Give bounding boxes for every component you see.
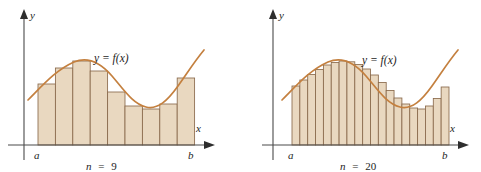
rectangle	[323, 65, 331, 145]
lower-bound-label: a	[288, 149, 294, 161]
x-axis-arrowhead	[458, 141, 469, 149]
rectangle	[402, 104, 410, 145]
rectangle	[410, 108, 418, 145]
rectangle	[142, 109, 159, 145]
rectangles-n20	[292, 61, 449, 145]
rectangle	[433, 99, 441, 146]
caption-equals: =	[98, 160, 104, 172]
rectangle	[441, 87, 449, 145]
rectangle	[347, 62, 355, 145]
y-axis-label: y	[29, 9, 35, 21]
y-axis-arrowhead	[20, 9, 28, 19]
x-axis-label: x	[195, 122, 201, 134]
y-axis-label: y	[278, 9, 284, 21]
function-label: y = f(x)	[93, 52, 129, 65]
rectangle	[308, 75, 316, 146]
rectangle	[418, 109, 426, 145]
panel-n20-plot: y x a b y = f(x) n = 20	[240, 0, 480, 172]
rectangle	[125, 106, 142, 145]
rectangle	[355, 65, 363, 146]
caption-equals: =	[352, 160, 358, 172]
rectangle	[292, 86, 300, 145]
rectangle	[55, 68, 72, 145]
upper-bound-label: b	[188, 149, 194, 161]
caption-n-symbol: n	[340, 160, 346, 172]
rectangle	[425, 106, 433, 145]
rectangle	[316, 70, 324, 146]
function-label: y = f(x)	[361, 54, 397, 67]
rectangle	[38, 84, 55, 145]
lower-bound-label: a	[34, 149, 40, 161]
x-axis-arrowhead	[204, 141, 215, 149]
x-axis-label: x	[449, 122, 455, 134]
caption-value: 9	[111, 160, 117, 172]
rectangle	[108, 92, 125, 145]
panel-n9-plot: y x a b y = f(x) n = 9	[0, 0, 240, 172]
riemann-sum-figure: y x a b y = f(x) n = 9	[0, 0, 481, 172]
caption-value: 20	[365, 160, 377, 172]
rectangle	[300, 80, 308, 145]
upper-bound-label: b	[442, 149, 448, 161]
rectangle	[90, 71, 107, 145]
rectangles-n9	[38, 61, 195, 145]
panel-n9: y x a b y = f(x) n = 9	[0, 0, 240, 172]
rectangle	[160, 104, 177, 145]
caption-n-symbol: n	[86, 160, 92, 172]
rectangle	[73, 61, 90, 145]
rectangle	[177, 78, 194, 145]
panel-caption: n = 20	[340, 160, 377, 172]
panel-n20: y x a b y = f(x) n = 20	[240, 0, 480, 172]
panel-caption: n = 9	[86, 160, 117, 172]
y-axis-arrowhead	[269, 9, 277, 19]
rectangle	[331, 63, 339, 146]
rectangle	[339, 61, 347, 145]
rectangle	[386, 91, 394, 146]
